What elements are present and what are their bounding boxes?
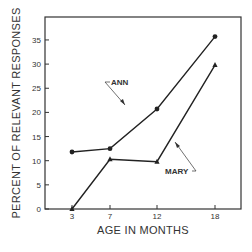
data-point-circle — [155, 107, 160, 112]
series-layer — [69, 34, 217, 211]
x-tick-label: 7 — [108, 212, 113, 221]
y-tick-label: 15 — [32, 133, 41, 142]
mary-annotation: MARY — [165, 142, 196, 176]
y-tick-label: 5 — [37, 181, 42, 190]
mary-label: MARY — [165, 167, 189, 176]
data-point-circle — [70, 150, 75, 155]
y-tick-label: 20 — [32, 108, 41, 117]
y-tick-label: 35 — [32, 36, 41, 45]
ann-label: ANN — [111, 78, 129, 87]
x-tick-label: 3 — [70, 212, 75, 221]
ann-annotation: ANN — [105, 78, 129, 105]
data-point-triangle — [212, 62, 217, 67]
y-tick-label: 30 — [32, 60, 41, 69]
y-tick-label: 10 — [32, 157, 41, 166]
x-tick-label: 12 — [153, 212, 162, 221]
y-axis-ticks: 05101520253035 — [32, 36, 49, 214]
data-point-circle — [213, 34, 218, 39]
series-line-mary — [72, 65, 215, 209]
y-tick-label: 25 — [32, 84, 41, 93]
y-axis-title: PERCENT OF RELEVANT RESPONSES — [10, 7, 22, 218]
x-axis-title: AGE IN MONTHS — [97, 224, 189, 236]
line-chart: 05101520253035 371218 PERCENT OF RELEVAN… — [0, 0, 252, 252]
plot-frame — [45, 17, 241, 209]
x-tick-label: 18 — [211, 212, 220, 221]
y-tick-label: 0 — [37, 205, 42, 214]
data-point-circle — [108, 146, 113, 151]
x-axis-ticks: 371218 — [70, 205, 220, 221]
series-line-ann — [72, 37, 215, 152]
